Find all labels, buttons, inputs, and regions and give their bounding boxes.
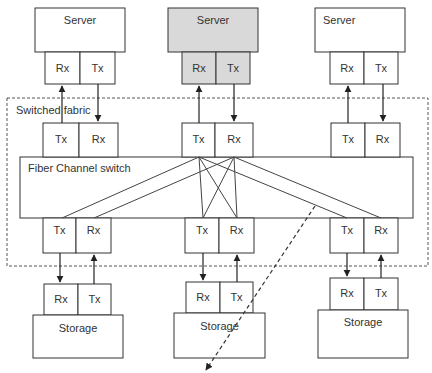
switch-top-2-rx-label: Rx — [215, 134, 253, 145]
storage-1-tx-label: Tx — [78, 294, 111, 305]
switch-top-1-rx-label: Rx — [79, 134, 118, 145]
switch-bottom-2-tx-label: Tx — [185, 225, 219, 236]
fiber-channel-switch-label: Fiber Channel switch — [28, 163, 131, 174]
switch-top-1-tx-label: Tx — [43, 134, 79, 145]
switch-top-3-tx-label: Tx — [331, 134, 365, 145]
switch-bottom-3-rx-label: Rx — [364, 225, 398, 236]
server-1-rx-label: Rx — [45, 63, 80, 74]
switch-bottom-1-tx-label: Tx — [43, 225, 76, 236]
server-3-label: Server — [323, 15, 403, 26]
switch-top-3-rx-label: Rx — [365, 134, 400, 145]
server-2-rx-label: Rx — [182, 63, 216, 74]
storage-3-label: Storage — [318, 317, 408, 328]
server-1-label: Server — [35, 15, 125, 26]
storage-2-label: Storage — [174, 321, 265, 332]
switch-top-2-tx-label: Tx — [182, 134, 215, 145]
storage-2-rx-label: Rx — [186, 292, 220, 303]
server-2-tx-label: Tx — [216, 63, 250, 74]
switch-bottom-2-rx-label: Rx — [219, 225, 254, 236]
server-3-tx-label: Tx — [364, 63, 398, 74]
server-3-rx-label: Rx — [330, 63, 364, 74]
server-1-tx-label: Tx — [80, 63, 115, 74]
switch-bottom-1-rx-label: Rx — [76, 225, 111, 236]
storage-1-label: Storage — [33, 323, 123, 334]
storage-2-tx-label: Tx — [220, 292, 253, 303]
storage-3-rx-label: Rx — [330, 288, 364, 299]
storage-3-tx-label: Tx — [364, 288, 398, 299]
storage-1-rx-label: Rx — [44, 294, 78, 305]
switched-fabric-label: Switched fabric — [16, 105, 91, 116]
server-2-label: Server — [168, 15, 258, 26]
switch-bottom-3-tx-label: Tx — [330, 225, 364, 236]
